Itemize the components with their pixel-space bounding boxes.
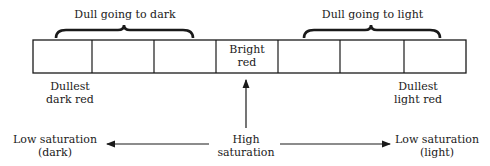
bright-red-cell-label: Bright red [216,43,278,69]
low-saturation-dark-label: Low saturation (dark) [10,133,100,159]
dullest-dark-line2: dark red [20,93,120,106]
bright-red-line2: red [216,56,278,69]
dullest-light-red-label: Dullest light red [368,80,468,106]
dullest-dark-red-label: Dullest dark red [20,80,120,106]
left-bracket-label: Dull going to dark [60,8,190,21]
low-dark-line1: Low saturation [10,133,100,146]
bright-red-line1: Bright [216,43,278,56]
dullest-light-line1: Dullest [368,80,468,93]
low-dark-line2: (dark) [10,146,100,159]
low-saturation-light-label: Low saturation (light) [392,133,482,159]
high-saturation-label: High saturation [206,133,286,159]
right-bracket [304,25,440,38]
dullest-light-line2: light red [368,93,468,106]
dullest-dark-line1: Dullest [20,80,120,93]
low-light-line1: Low saturation [392,133,482,146]
left-bracket [56,25,193,38]
high-sat-line2: saturation [206,146,286,159]
high-sat-line1: High [206,133,286,146]
right-bracket-label: Dull going to light [305,8,440,21]
low-light-line2: (light) [392,146,482,159]
